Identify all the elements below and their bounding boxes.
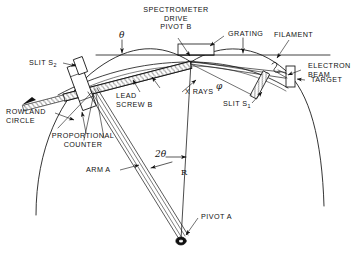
label-filament: FILAMENT [274, 31, 313, 40]
symbol-two-theta: 2θ [155, 149, 166, 159]
leader-target [297, 79, 305, 80]
label-pivot-a: PIVOT A [201, 213, 232, 222]
label-proportional-counter: PROPORTIONAL COUNTER [40, 132, 126, 149]
leader-pivot-a [186, 218, 198, 235]
leader-grating [210, 36, 224, 46]
symbol-radius-r: R [181, 168, 187, 177]
label-slit-s2-subscript: 2 [54, 62, 57, 68]
symbol-theta: θ [119, 30, 124, 40]
label-arm-a: ARM A [86, 166, 111, 175]
slit-s1-blade [250, 71, 269, 99]
label-spectrometer-drive-pivot-b: SPECTROMETER DRIVE PIVOT B [128, 6, 224, 32]
label-slit-s2-text: SLIT S [29, 58, 54, 67]
label-slit-s1-subscript: 1 [248, 103, 251, 109]
leader-lead-screw-2 [152, 77, 160, 88]
label-slit-s1-text: SLIT S [223, 99, 248, 108]
symbol-phi: φ [216, 81, 222, 91]
label-slit-s1: SLIT S1 [223, 100, 251, 110]
label-slit-s2: SLIT S2 [29, 59, 57, 69]
label-lead-screw-b: LEAD SCREW B [116, 92, 153, 109]
two-theta-arrow-left [151, 162, 172, 168]
leader-prop-counter [82, 112, 86, 133]
target-block [286, 66, 295, 87]
diagram-canvas: SPECTROMETER DRIVE PIVOT B GRATING FILAM… [0, 0, 351, 254]
label-grating: GRATING [228, 30, 263, 39]
label-x-rays: X RAYS [185, 88, 214, 97]
label-rowland-circle: ROWLAND CIRCLE [6, 108, 46, 125]
label-target: TARGET [311, 76, 342, 85]
arm-a [88, 88, 188, 239]
